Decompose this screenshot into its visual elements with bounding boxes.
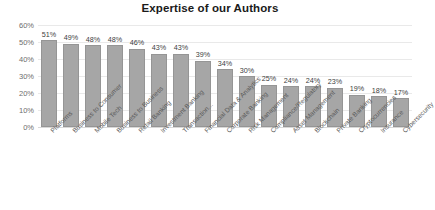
x-axis-category-labels: PlatformsBusiness to ConsumerMobile Tech…: [38, 129, 412, 209]
y-axis-tick-label: 20%: [0, 89, 34, 98]
y-axis-tick-label: 30%: [0, 72, 34, 81]
bar-value-label: 48%: [86, 35, 100, 44]
chart-title: Expertise of our Authors: [0, 2, 420, 14]
bar-value-label: 23%: [328, 77, 342, 86]
bar-value-label: 18%: [372, 86, 386, 95]
bar-value-label: 30%: [240, 66, 254, 75]
bar-value-label: 19%: [350, 84, 364, 93]
y-axis-tick-label: 50%: [0, 38, 34, 47]
bar-value-label: 48%: [108, 35, 122, 44]
y-axis-tick-label: 40%: [0, 55, 34, 64]
bar-value-label: 49%: [64, 33, 78, 42]
bar[interactable]: [41, 40, 57, 127]
bar-value-label: 25%: [262, 74, 276, 83]
y-axis-tick-label: 60%: [0, 21, 34, 30]
y-axis: 60%50%40%30%20%10%0%: [0, 25, 34, 127]
bar-value-label: 24%: [284, 76, 298, 85]
bar-value-label: 43%: [152, 43, 166, 52]
bar-value-label: 43%: [174, 43, 188, 52]
bar-value-label: 46%: [130, 38, 144, 47]
bar-value-label: 39%: [196, 50, 210, 59]
y-axis-tick-label: 10%: [0, 106, 34, 115]
bar-value-label: 17%: [394, 88, 408, 97]
bar-item[interactable]: 51%: [38, 25, 60, 127]
bar-value-label: 34%: [218, 59, 232, 68]
y-axis-tick-label: 0%: [0, 123, 34, 132]
bar-value-label: 51%: [42, 30, 56, 39]
